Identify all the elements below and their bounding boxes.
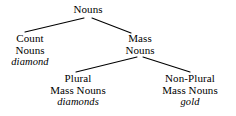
tree-node-mass-nouns-label-line2: Nouns: [125, 45, 154, 57]
tree-node-count-nouns-label-line2: Nouns: [11, 45, 48, 57]
edge-root-to-mass-nouns: [92, 18, 131, 33]
tree-node-mass-nouns: Mass Nouns: [125, 33, 154, 56]
tree-node-plural-mass-nouns-label-line1: Plural: [50, 73, 106, 85]
tree-node-non-plural-mass-nouns-example: gold: [162, 96, 218, 108]
tree-node-plural-mass-nouns-label-line2: Mass Nouns: [50, 85, 106, 97]
tree-node-mass-nouns-label-line1: Mass: [125, 33, 154, 45]
tree-node-plural-mass-nouns-example: diamonds: [50, 96, 106, 108]
tree-node-count-nouns-example: diamond: [11, 56, 48, 68]
edge-mass-nouns-to-plural-mass-nouns: [76, 57, 137, 72]
noun-taxonomy-diagram: Nouns Count Nouns diamond Mass Nouns Plu…: [0, 0, 236, 116]
tree-node-plural-mass-nouns: Plural Mass Nouns diamonds: [50, 73, 106, 108]
tree-node-non-plural-mass-nouns-label-line1: Non-Plural: [162, 73, 218, 85]
tree-node-non-plural-mass-nouns-label-line2: Mass Nouns: [162, 85, 218, 97]
tree-node-count-nouns: Count Nouns diamond: [11, 33, 48, 68]
edge-root-to-count-nouns: [25, 18, 84, 32]
tree-node-non-plural-mass-nouns: Non-Plural Mass Nouns gold: [162, 73, 218, 108]
edge-mass-nouns-to-non-plural-mass-nouns: [143, 57, 190, 72]
tree-node-nouns: Nouns: [73, 4, 102, 16]
tree-node-count-nouns-label-line1: Count: [11, 33, 48, 45]
tree-node-nouns-label: Nouns: [73, 4, 102, 16]
